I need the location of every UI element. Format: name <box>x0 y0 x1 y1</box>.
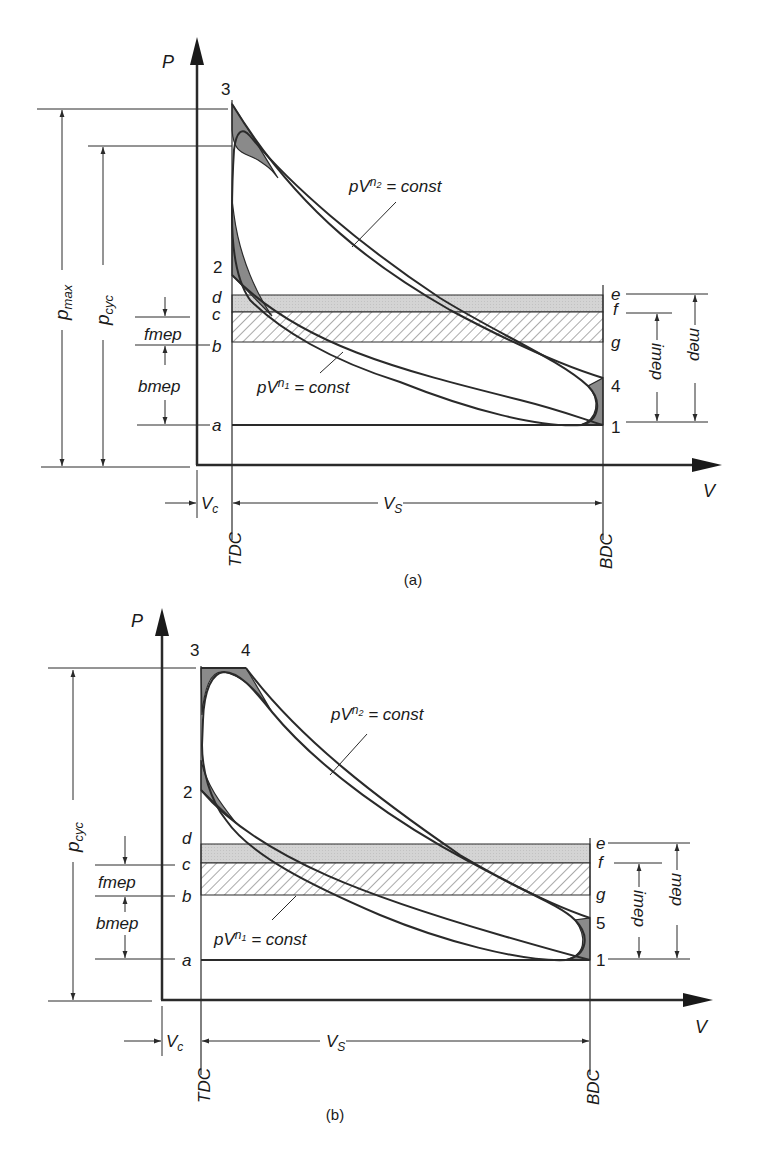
pmax-label: pmax <box>51 284 75 321</box>
point-label-2: 2 <box>183 783 192 802</box>
point-label-1: 1 <box>596 951 605 970</box>
v-axis-arrowhead <box>692 458 722 472</box>
point-label-3: 3 <box>221 80 230 99</box>
expansion-curve-leader <box>352 202 396 247</box>
p-axis-label: P <box>131 611 143 631</box>
mep-label: mep <box>668 873 687 906</box>
level-label-a: a <box>212 416 221 435</box>
hatched-band-cg <box>232 312 603 342</box>
fmep-label: fmep <box>144 325 182 344</box>
level-label-g: g <box>596 885 606 904</box>
compression-curve-label: pVn1 = const <box>256 376 351 397</box>
expansion-curve-label: pVn2 = const <box>348 175 443 196</box>
pcyc-label: pcyc <box>92 294 116 326</box>
point-label-1: 1 <box>611 418 620 437</box>
bmep-label: bmep <box>96 914 139 933</box>
vc-label: Vc <box>166 1032 183 1054</box>
imep-label: imep <box>648 343 667 380</box>
v-axis-arrowhead <box>683 993 713 1007</box>
p-axis-arrowhead <box>155 608 169 636</box>
mep-label: mep <box>686 328 705 361</box>
panel-b: P V pcyc fmep bmep d c b a 3 4 2 5 1 e f… <box>48 608 713 1123</box>
compression-curve-leader <box>272 896 296 920</box>
vc-label: Vc <box>201 494 218 516</box>
p-axis-arrowhead <box>190 37 204 65</box>
point-label-5: 5 <box>596 914 605 933</box>
panel-label-b: (b) <box>326 1106 344 1123</box>
vs-label: VS <box>326 1032 345 1054</box>
point-label-4: 4 <box>241 641 250 660</box>
point-label-2: 2 <box>213 258 222 277</box>
level-label-d: d <box>182 829 192 848</box>
panel-label-a: (a) <box>404 571 422 588</box>
level-label-b: b <box>182 887 191 906</box>
p-axis-label: P <box>162 52 174 72</box>
level-label-e: e <box>596 834 605 853</box>
v-axis-label: V <box>695 1017 709 1037</box>
bdc-label: BDC <box>584 1068 603 1105</box>
level-label-c: c <box>182 855 191 874</box>
level-label-g: g <box>611 333 621 352</box>
imep-label: imep <box>630 890 649 927</box>
loss-region-compression <box>201 760 236 823</box>
pv-diagram-figure: P V pmax pcyc fmep bmep d c b a 3 2 4 1 <box>0 0 757 1154</box>
panel-a: P V pmax pcyc fmep bmep d c b a 3 2 4 1 <box>37 37 722 588</box>
level-label-f: f <box>598 853 605 872</box>
v-axis-label: V <box>703 481 717 501</box>
level-label-a: a <box>182 951 191 970</box>
hatched-band-cg <box>201 863 590 895</box>
level-label-c: c <box>212 305 221 324</box>
bdc-label: BDC <box>597 532 616 569</box>
vs-label: VS <box>383 494 402 516</box>
compression-curve-label: pVn1 = const <box>213 928 308 949</box>
bmep-label: bmep <box>138 377 181 396</box>
point-label-4: 4 <box>611 377 620 396</box>
point-label-3: 3 <box>190 641 199 660</box>
expansion-curve-leader <box>330 734 367 775</box>
tdc-label: TDC <box>195 1067 214 1103</box>
level-label-b: b <box>212 337 221 356</box>
pcyc-label: pcyc <box>62 821 86 853</box>
fmep-label: fmep <box>98 873 136 892</box>
friction-band-de <box>232 295 603 312</box>
tdc-label: TDC <box>226 531 245 567</box>
expansion-curve-label: pVn2 = const <box>330 703 425 724</box>
